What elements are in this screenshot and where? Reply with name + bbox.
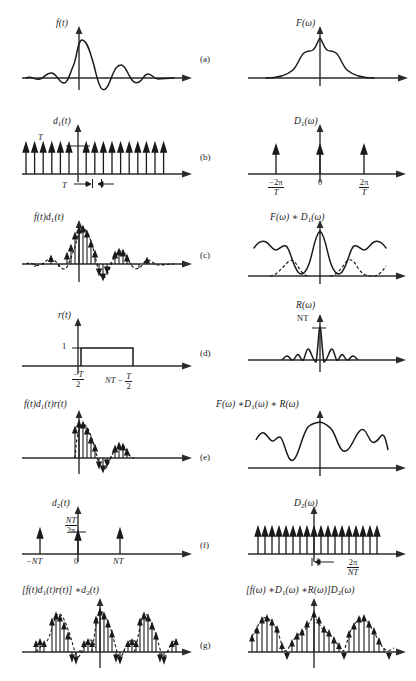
row-f-tick-pos: NT <box>113 557 123 566</box>
figure-row-a: f(t) (a) F(ω) <box>0 0 416 100</box>
row-f-amp-label: NT2π <box>58 516 84 535</box>
row-a-left-plot <box>22 26 192 94</box>
row-b-spacing-label: T <box>62 181 67 190</box>
row-b-tick-zero: 0 <box>313 178 327 187</box>
row-g-right-plot <box>248 596 410 676</box>
row-f-left-plot <box>22 506 194 568</box>
row-b-tick-neg: −2πT <box>262 178 290 197</box>
row-a-tag: (a) <box>200 54 210 64</box>
row-c-tag: (c) <box>200 250 210 260</box>
row-g-right-label: [f(ω) ∗D1(ω) ∗R(ω)]D2(ω) <box>246 586 355 597</box>
row-d-right-label: R(ω) <box>296 301 315 311</box>
figure-row-c: f(t)d1(t) <box>0 198 416 298</box>
row-g-left-plot <box>22 596 194 676</box>
figure-row-f: d2(t) NT2π −NT 0 NT (f) D2( <box>0 494 416 590</box>
row-c-right-plot <box>248 220 408 292</box>
row-f-spacing-label: 2πNT <box>340 558 366 577</box>
row-a-right-plot <box>248 26 408 94</box>
row-d-left-plot <box>22 318 194 380</box>
row-g-tag: (g) <box>200 640 211 650</box>
row-d-amp-label: 1 <box>62 342 66 351</box>
row-e-left-label: f(t)d1(t)r(t) <box>24 400 67 411</box>
row-b-left-plot <box>22 124 194 186</box>
figure-row-e: f(t)d1(t)r(t) <box>0 396 416 494</box>
row-f-tag: (f) <box>200 540 209 550</box>
row-d-tick-start: −T2 <box>66 370 90 389</box>
row-b-tag: (b) <box>200 152 211 162</box>
row-e-right-plot <box>248 410 408 482</box>
row-g-left-label: [f(t)d1(t)r(t)] ∗d2(t) <box>22 586 99 597</box>
dft-derivation-figure: f(t) (a) F(ω) d1(t) <box>0 0 416 681</box>
row-f-right-plot <box>248 506 410 568</box>
row-b-amp-label: T <box>38 133 43 142</box>
row-e-tag: (e) <box>200 452 210 462</box>
row-f-tick-neg: −NT <box>26 557 42 566</box>
row-e-left-plot <box>22 410 194 482</box>
figure-row-d: r(t) 1 −T2 NT − T2 (d) R(ω) <box>0 298 416 396</box>
row-d-tag: (d) <box>200 348 211 358</box>
row-b-tick-pos: 2πT <box>350 178 378 197</box>
row-d-right-amp-label: NT <box>297 314 308 323</box>
row-e-right-label: F(ω) ∗D1(ω) ∗ R(ω) <box>216 400 299 411</box>
figure-row-b: d1(t) <box>0 100 416 198</box>
row-f-tick-zero: 0 <box>74 557 78 566</box>
row-d-tick-end: NT − T2 <box>105 372 132 391</box>
row-d-right-plot <box>248 318 408 380</box>
row-c-left-plot <box>22 220 194 292</box>
figure-row-g: [f(t)d1(t)r(t)] ∗d2(t) <box>0 582 416 681</box>
